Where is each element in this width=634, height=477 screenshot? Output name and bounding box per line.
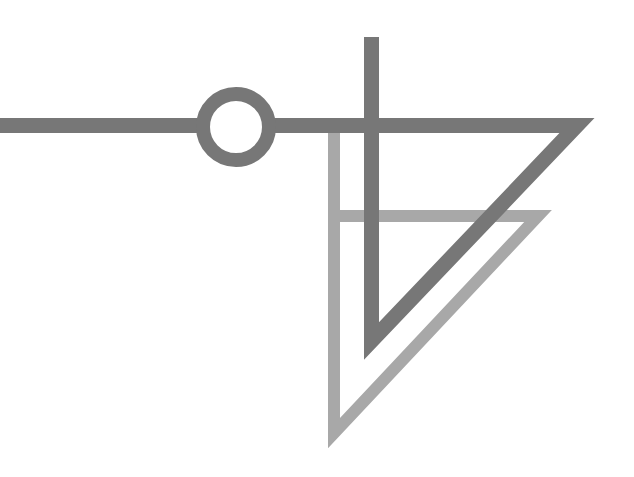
ring-node — [203, 94, 269, 160]
geometric-diagram — [0, 0, 634, 477]
dark-triangle — [372, 126, 578, 342]
